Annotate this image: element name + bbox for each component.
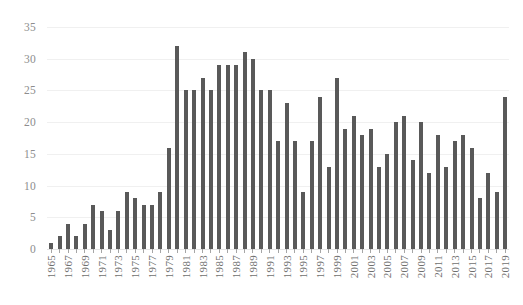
bar xyxy=(360,135,364,249)
bar xyxy=(209,90,213,249)
bar xyxy=(285,103,289,249)
bar-slot xyxy=(72,27,80,249)
bar xyxy=(411,160,415,249)
bar-slot xyxy=(417,27,425,249)
bar-slot xyxy=(182,27,190,249)
x-tick-mark xyxy=(311,249,312,253)
bar xyxy=(453,141,457,249)
bar-slot xyxy=(106,27,114,249)
y-tick-label: 0 xyxy=(30,243,36,255)
x-tick-mark xyxy=(160,249,161,253)
x-tick-slot: 2011 xyxy=(434,249,442,305)
bar-slot xyxy=(198,27,206,249)
bar xyxy=(184,90,188,249)
x-tick-mark xyxy=(93,249,94,253)
x-tick-slot: 2013 xyxy=(451,249,459,305)
x-tick-slot: 2015 xyxy=(467,249,475,305)
bar-slot xyxy=(240,27,248,249)
x-tick-mark xyxy=(353,249,354,253)
x-tick-slot: 1977 xyxy=(148,249,156,305)
bar xyxy=(116,211,120,249)
bar xyxy=(495,192,499,249)
plot-area xyxy=(47,27,509,249)
bar xyxy=(259,90,263,249)
bar xyxy=(58,236,62,249)
bar-slot xyxy=(501,27,509,249)
bar xyxy=(276,141,280,249)
bar-slot xyxy=(299,27,307,249)
y-tick-label: 35 xyxy=(24,21,36,33)
bar xyxy=(133,198,137,249)
bar xyxy=(402,116,406,249)
x-tick-slot: 1965 xyxy=(47,249,55,305)
bar-slot xyxy=(156,27,164,249)
x-tick-mark xyxy=(421,249,422,253)
bar xyxy=(318,97,322,249)
bar-slot xyxy=(215,27,223,249)
bar xyxy=(108,230,112,249)
bar xyxy=(243,52,247,249)
bar xyxy=(217,65,221,249)
bar xyxy=(301,192,305,249)
bar-slot xyxy=(333,27,341,249)
bar xyxy=(310,141,314,249)
y-tick-label: 5 xyxy=(30,211,36,223)
bar-slot xyxy=(467,27,475,249)
x-tick-mark xyxy=(84,249,85,253)
x-tick-mark xyxy=(479,249,480,253)
x-tick-slot: 2019 xyxy=(501,249,509,305)
bar xyxy=(470,148,474,249)
x-tick-mark xyxy=(320,249,321,253)
bar xyxy=(268,90,272,249)
bar-slot xyxy=(173,27,181,249)
x-tick-mark xyxy=(404,249,405,253)
bar-slot xyxy=(392,27,400,249)
y-tick-label: 30 xyxy=(24,53,36,65)
x-tick-mark xyxy=(328,249,329,253)
bar-slot xyxy=(266,27,274,249)
bar-slot xyxy=(341,27,349,249)
bar xyxy=(150,205,154,249)
bar xyxy=(478,198,482,249)
x-tick-mark xyxy=(219,249,220,253)
x-tick-mark xyxy=(387,249,388,253)
bar-slot xyxy=(400,27,408,249)
bar xyxy=(461,135,465,249)
bar-slot xyxy=(425,27,433,249)
bar xyxy=(394,122,398,249)
x-tick-slot: 1971 xyxy=(97,249,105,305)
bar-slot xyxy=(190,27,198,249)
bar-slot xyxy=(232,27,240,249)
x-tick-mark xyxy=(261,249,262,253)
x-tick-mark xyxy=(227,249,228,253)
bar xyxy=(385,154,389,249)
x-tick-slot: 1981 xyxy=(182,249,190,305)
bar xyxy=(91,205,95,249)
x-tick-mark xyxy=(202,249,203,253)
x-axis-labels: 1965196719691971197319751977197919811983… xyxy=(47,249,509,305)
x-tick-slot: 1969 xyxy=(81,249,89,305)
x-tick-mark xyxy=(68,249,69,253)
bar-slot xyxy=(308,27,316,249)
bar-slot xyxy=(291,27,299,249)
x-tick-mark xyxy=(269,249,270,253)
bar xyxy=(419,122,423,249)
x-tick-mark xyxy=(395,249,396,253)
x-tick-slot: 2007 xyxy=(400,249,408,305)
bar-slot xyxy=(274,27,282,249)
x-tick-slot: 2009 xyxy=(417,249,425,305)
bar xyxy=(293,141,297,249)
bar xyxy=(503,97,507,249)
x-tick-slot: 2017 xyxy=(484,249,492,305)
bar-slot xyxy=(358,27,366,249)
bar-slot xyxy=(350,27,358,249)
bar xyxy=(343,129,347,250)
bar-slot xyxy=(64,27,72,249)
bar-slot xyxy=(123,27,131,249)
bar xyxy=(158,192,162,249)
x-tick-slot: 1993 xyxy=(282,249,290,305)
x-tick-mark xyxy=(101,249,102,253)
bar xyxy=(167,148,171,249)
bar-slot xyxy=(131,27,139,249)
bar xyxy=(377,167,381,249)
